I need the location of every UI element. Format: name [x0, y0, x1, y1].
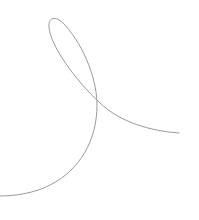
loop-curve-stroke [0, 18, 179, 196]
drawing-canvas [0, 0, 199, 220]
curve-drawing [0, 0, 199, 220]
